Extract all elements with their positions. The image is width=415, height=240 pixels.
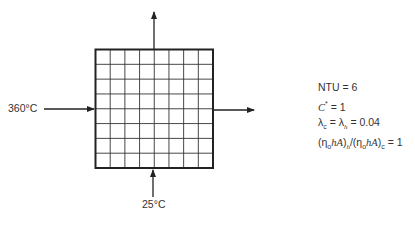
lambda-line: λc = λh = 0.04 <box>318 115 403 136</box>
c-star-value: = 1 <box>328 100 346 112</box>
core-grid <box>96 50 214 169</box>
c-symbol: C <box>318 101 325 112</box>
parameters-block: NTU = 6 C* = 1 λc = λh = 0.04 (ηohA)h/(η… <box>318 80 403 156</box>
c-star-line: C* = 1 <box>318 96 403 115</box>
ratio-open: (η <box>318 136 327 148</box>
ratio-slash: /(η <box>350 136 362 148</box>
cold-inlet-temp-label: 25°C <box>142 198 165 210</box>
hot-inlet-temp-label: 360°C <box>8 102 37 114</box>
ratio-value: = 1 <box>385 136 403 148</box>
lambda-eq: = λ <box>327 116 344 128</box>
ratio-ha: hA <box>331 137 343 148</box>
lambda-value: = 0.04 <box>347 116 379 128</box>
ratio-ha2: hA <box>366 137 378 148</box>
ntu-line: NTU = 6 <box>318 80 403 96</box>
ratio-line: (ηohA)h/(ηohA)c = 1 <box>318 135 403 156</box>
